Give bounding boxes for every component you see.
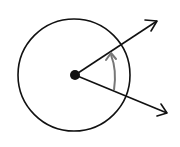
angle-diagram: [0, 0, 180, 147]
vertex-point: [70, 70, 80, 80]
initial-ray: [75, 75, 167, 113]
rotation-arc: [111, 55, 115, 90]
terminal-ray: [75, 21, 157, 75]
